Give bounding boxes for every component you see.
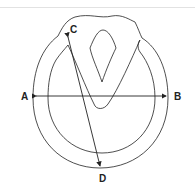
frog-diamond <box>90 30 116 82</box>
label-d: D <box>99 173 106 184</box>
measure-line-c-d <box>68 37 100 166</box>
label-a: A <box>21 91 28 102</box>
inner-sole-outline <box>48 40 155 153</box>
hoof-diagram: A B C D <box>0 0 195 186</box>
label-c: C <box>70 24 77 35</box>
outer-hoof-wall <box>33 16 168 168</box>
label-b: B <box>174 91 181 102</box>
